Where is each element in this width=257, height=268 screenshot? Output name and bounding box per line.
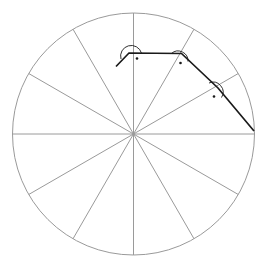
right-angle-spiral-path — [116, 53, 254, 131]
radial-spoke-240deg — [73, 134, 134, 239]
radial-spoke-300deg — [134, 134, 195, 239]
radial-spoke-120deg — [73, 29, 134, 134]
radial-spoke-30deg — [134, 74, 239, 135]
radial-spoke-60deg — [134, 29, 195, 134]
radial-spoke-330deg — [134, 134, 239, 195]
right-angle-vertex-3-dot — [213, 95, 216, 98]
radial-spoke-210deg — [29, 134, 134, 195]
figure-root — [0, 0, 257, 268]
geometry-diagram-svg — [0, 0, 257, 268]
radial-spoke-150deg — [29, 74, 134, 135]
spokes-group — [13, 13, 255, 255]
right-angle-vertex-1-dot — [136, 57, 139, 60]
right-angle-vertex-2-dot — [179, 62, 182, 65]
right-angle-vertex-3-arc — [209, 82, 223, 97]
